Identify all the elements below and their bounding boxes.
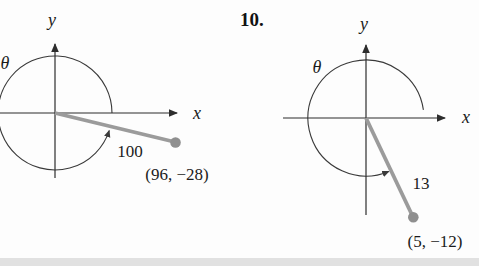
theta-label: θ — [1, 53, 10, 73]
y-axis-label: y — [358, 14, 368, 34]
endpoint-coordinates-label: (96, −28) — [145, 165, 208, 184]
figure-canvas: y x θ 100 (96, −28) 10. y x θ 13 (5, −12… — [0, 0, 479, 266]
radius-vector — [55, 113, 175, 142]
x-axis-label: x — [192, 103, 201, 123]
vector-endpoint-dot — [170, 137, 181, 148]
endpoint-coordinates-label: (5, −12) — [408, 232, 463, 251]
theta-label: θ — [313, 57, 322, 77]
textbook-figure-page: y x θ 100 (96, −28) 10. y x θ 13 (5, −12… — [0, 0, 479, 266]
vector-endpoint-dot — [408, 212, 419, 223]
right-diagram: y x θ 13 (5, −12) — [283, 14, 470, 251]
y-axis-label: y — [46, 10, 56, 30]
radius-vector — [366, 118, 413, 217]
x-axis-label: x — [461, 107, 470, 127]
page-edge-shadow — [0, 258, 479, 266]
radius-length-label: 13 — [413, 174, 430, 193]
problem-number: 10. — [240, 9, 264, 30]
radius-length-label: 100 — [117, 142, 143, 161]
left-diagram: y x θ 100 (96, −28) — [0, 10, 209, 184]
